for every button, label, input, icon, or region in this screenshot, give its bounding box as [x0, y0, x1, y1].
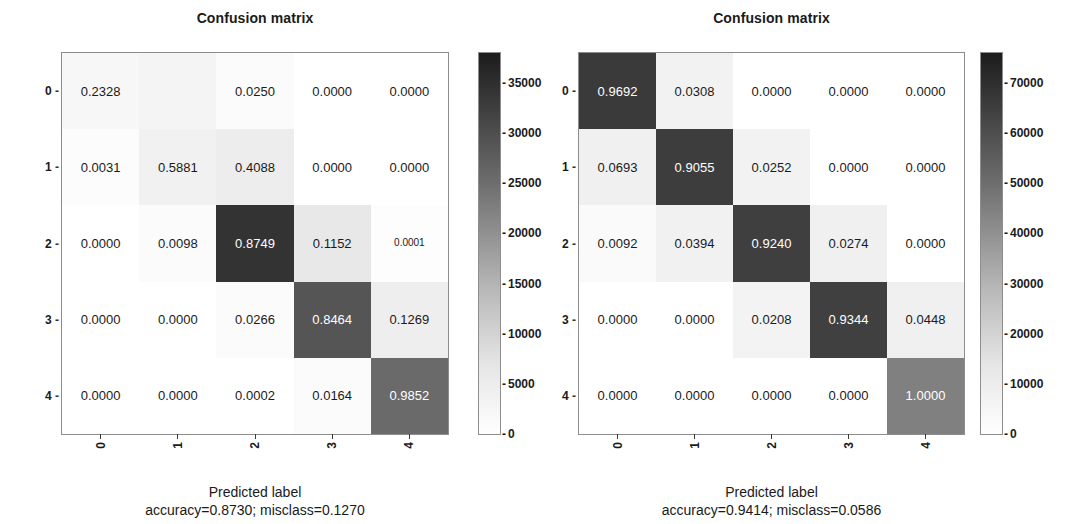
x-tick-mark-icon [100, 434, 101, 439]
colorbar-tick-text: 5000 [508, 377, 535, 391]
y-tick-mark-icon: - [52, 313, 59, 327]
heatmap-cell: 0.0000 [294, 129, 371, 205]
colorbar-tick-mark-icon: - [502, 377, 506, 391]
heatmap-cell: 0.0000 [810, 358, 887, 434]
accuracy-caption-right: accuracy=0.9414; misclass=0.0586 [558, 502, 985, 518]
colorbar-tick-mark-icon: - [1004, 76, 1008, 90]
y-tick-label: 1 - [45, 160, 62, 174]
y-tick-label: 0 - [562, 84, 579, 98]
heatmap-grid-right: 0.96920.03080.00000.00000.00000.06930.90… [579, 53, 964, 434]
colorbar-tick-mark-icon: - [502, 427, 506, 441]
heatmap-cell: 0.0000 [139, 358, 216, 434]
colorbar-tick-mark-icon: - [1004, 226, 1008, 240]
x-tick-text: 4 [402, 442, 416, 449]
x-tick-text: 0 [611, 442, 625, 449]
y-tick-mark-icon: - [569, 160, 576, 174]
y-tick-mark-icon: - [569, 389, 576, 403]
heatmap-cell: 0.9692 [579, 53, 656, 129]
colorbar-tick-mark-icon: - [1004, 176, 1008, 190]
heatmap-cell: 0.0448 [887, 282, 964, 358]
colorbar-tick-label: -20000 [1002, 327, 1043, 341]
x-tick-text: 1 [688, 442, 702, 449]
x-tick-label: 3 [842, 434, 856, 449]
y-tick-label: 4 - [562, 389, 579, 403]
colorbar-tick-mark-icon: - [502, 176, 506, 190]
heatmap-cell: 0.8464 [294, 282, 371, 358]
heatmap-cell: 0.0000 [733, 358, 810, 434]
heatmap-cell: 0.0000 [579, 358, 656, 434]
x-tick-label: 2 [765, 434, 779, 449]
heatmap-cell: 0.0000 [62, 205, 139, 281]
heatmap-cell: 0.0164 [294, 358, 371, 434]
y-tick-mark-icon: - [569, 237, 576, 251]
heatmap-cell: 0.0208 [733, 282, 810, 358]
heatmap-cell: 0.9852 [371, 358, 448, 434]
x-tick-mark-icon [177, 434, 178, 439]
heatmap-grid-left: 0.23280.02500.00000.00000.00310.58810.40… [62, 53, 448, 434]
heatmap-cell: 0.9240 [733, 205, 810, 281]
heatmap-cell: 0.0394 [656, 205, 733, 281]
colorbar-tick-text: 25000 [508, 176, 541, 190]
y-tick-text: 2 [45, 237, 52, 251]
y-tick-label: 3 - [45, 313, 62, 327]
colorbar-tick-mark-icon: - [502, 226, 506, 240]
heatmap-cell: 1.0000 [887, 358, 964, 434]
heatmap-cell: 0.0000 [887, 53, 964, 129]
x-tick-mark-icon [925, 434, 926, 439]
x-tick-label: 1 [171, 434, 185, 449]
heatmap-cell: 0.0000 [579, 282, 656, 358]
colorbar-tick-text: 0 [1010, 427, 1017, 441]
heatmap-cell: 0.0000 [62, 358, 139, 434]
colorbar-tick-text: 0 [508, 427, 515, 441]
y-tick-text: 1 [45, 160, 52, 174]
colorbar-tick-text: 40000 [1010, 226, 1043, 240]
heatmap-cell: 0.1269 [371, 282, 448, 358]
heatmap-cell: 0.0000 [810, 129, 887, 205]
colorbar-tick-mark-icon: - [502, 126, 506, 140]
right-panel: Confusion matrix 0.96920.03080.00000.000… [544, 0, 1087, 524]
colorbar-tick-label: -30000 [500, 126, 541, 140]
colorbar-tick-text: 50000 [1010, 176, 1043, 190]
colorbar-tick-mark-icon: - [1004, 327, 1008, 341]
heatmap-cell: 0.0000 [810, 53, 887, 129]
x-tick-mark-icon [617, 434, 618, 439]
y-tick-label: 3 - [562, 313, 579, 327]
colorbar-tick-mark-icon: - [502, 327, 506, 341]
y-tick-mark-icon: - [52, 160, 59, 174]
heatmap-cell: 0.0000 [62, 282, 139, 358]
x-tick-label: 0 [94, 434, 108, 449]
left-panel: Confusion matrix 0.23280.02500.00000.000… [0, 0, 544, 524]
x-tick-text: 0 [94, 442, 108, 449]
heatmap-cell: 0.0000 [371, 53, 448, 129]
colorbar-tick-label: -70000 [1002, 76, 1043, 90]
y-tick-mark-icon: - [52, 389, 59, 403]
x-tick-mark-icon [255, 434, 256, 439]
colorbar-tick-text: 35000 [508, 76, 541, 90]
heatmap-cell: 0.0092 [579, 205, 656, 281]
heatmap-cell: 0.0266 [216, 282, 293, 358]
heatmap-cell: 0.0000 [139, 282, 216, 358]
y-tick-text: 2 [562, 237, 569, 251]
heatmap-cell: 0.0001 [371, 205, 448, 281]
colorbar-tick-label: -0 [1002, 427, 1017, 441]
colorbar-tick-label: -10000 [500, 327, 541, 341]
colorbar-tick-mark-icon: - [1004, 126, 1008, 140]
y-tick-label: 0 - [45, 84, 62, 98]
y-tick-mark-icon: - [569, 84, 576, 98]
y-tick-label: 1 - [562, 160, 579, 174]
heatmap-cell: 0.0000 [887, 129, 964, 205]
colorbar-tick-text: 10000 [508, 327, 541, 341]
colorbar-tick-mark-icon: - [502, 277, 506, 291]
colorbar-tick-mark-icon: - [502, 76, 506, 90]
colorbar-tick-text: 10000 [1010, 377, 1043, 391]
colorbar-tick-mark-icon: - [1004, 377, 1008, 391]
x-tick-label: 0 [611, 434, 625, 449]
heatmap-cell: 0.0000 [371, 129, 448, 205]
x-axis-label-left: Predicted label [61, 484, 449, 500]
colorbar-tick-label: -5000 [500, 377, 535, 391]
x-tick-text: 3 [325, 442, 339, 449]
x-tick-text: 4 [919, 442, 933, 449]
colorbar-right: -70000-60000-50000-40000-30000-20000-100… [980, 52, 1003, 435]
heatmap-cell: 0.9344 [810, 282, 887, 358]
y-tick-mark-icon: - [52, 237, 59, 251]
